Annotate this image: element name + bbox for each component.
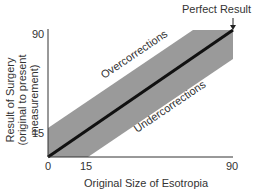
y-axis-label: Result of Surgery (original to present m… [4,30,40,170]
y-axis-label-line2: (original to present measurement) [16,30,40,170]
chart: Overcorrections Undercorrections Perfect… [0,0,263,192]
perfect-result-label: Perfect Result [182,3,251,15]
y-axis-label-line1: Result of Surgery [4,30,16,170]
x-tick-90: 90 [226,160,238,172]
arrow-down-icon [230,25,236,30]
x-axis-label: Original Size of Esotropia [84,177,208,189]
x-tick-15: 15 [80,160,92,172]
x-tick-0: 0 [45,160,51,172]
